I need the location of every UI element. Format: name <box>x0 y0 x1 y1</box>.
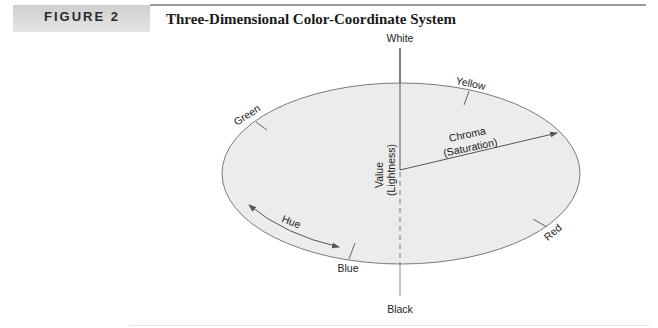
black-label: Black <box>387 303 413 315</box>
blue-label: Blue <box>337 262 358 274</box>
hue-ellipse <box>222 83 580 264</box>
white-label: White <box>387 32 414 44</box>
color-coordinate-diagram: White Black Green Yellow Red Blue Hue Ch… <box>0 0 658 328</box>
value-label-line1: Value <box>373 162 385 188</box>
value-label-line2: (Lightness) <box>385 144 397 196</box>
bottom-rule-divider <box>130 325 650 326</box>
